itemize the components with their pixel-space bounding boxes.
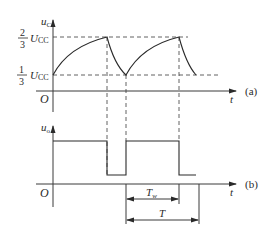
panel-b-origin-label: O <box>40 186 49 200</box>
level-one-third-vcc-label: 1 3 UCC <box>17 64 49 87</box>
output-pulse-waveform <box>53 141 196 175</box>
svg-text:3: 3 <box>19 76 24 87</box>
svg-text:1: 1 <box>19 64 24 75</box>
svg-text:3: 3 <box>20 39 25 50</box>
panel-b-y-label: uo <box>41 121 51 135</box>
panel-a-label: (a) <box>245 85 258 98</box>
tw-label: Tw <box>146 186 157 200</box>
svg-text:UCC: UCC <box>30 69 49 82</box>
panel-a-capacitor-voltage: uC O t (a) 2 3 UCC 1 3 UCC <box>17 15 258 112</box>
period-label: T <box>159 207 166 219</box>
panel-b-label: (b) <box>245 178 258 191</box>
svg-text:UCC: UCC <box>30 32 49 45</box>
level-two-thirds-vcc-label: 2 3 UCC <box>18 27 49 50</box>
astable-waveform-diagram: uC O t (a) 2 3 UCC 1 3 UCC <box>0 0 272 230</box>
svg-text:2: 2 <box>20 27 25 38</box>
panel-a-y-label: uC <box>41 15 52 29</box>
capacitor-voltage-curve <box>53 37 196 75</box>
panel-a-x-label: t <box>230 93 234 105</box>
panel-b-output-voltage: uo O t (b) Tw T <box>36 121 258 224</box>
panel-b-x-label: t <box>230 186 234 198</box>
panel-a-origin-label: O <box>40 92 49 106</box>
